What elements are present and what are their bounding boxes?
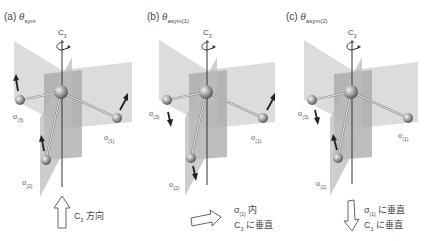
atom-3 bbox=[307, 95, 317, 105]
right-outline-arrow-icon bbox=[191, 210, 221, 226]
sigma1-label: σ(1) bbox=[251, 133, 261, 144]
atom-1 bbox=[112, 113, 122, 123]
down-outline-arrow-icon bbox=[344, 200, 359, 231]
atom-2 bbox=[333, 153, 343, 163]
atom-1 bbox=[403, 113, 413, 123]
caption-line-2: C3 に垂直 bbox=[364, 220, 405, 235]
atom-2 bbox=[41, 155, 51, 165]
atom-1 bbox=[258, 113, 268, 123]
panel-a: (a) θsym bbox=[0, 0, 142, 241]
c3-label: C3 bbox=[348, 28, 357, 39]
sigma2-label: σ(2) bbox=[316, 179, 326, 190]
panel-c: (c) θasym(2) C3 σ(3) σ(1) σ(2) σ(1 bbox=[282, 0, 424, 241]
sigma3-label: σ(3) bbox=[13, 112, 23, 123]
caption: σ(1) に垂直 C3 に垂直 bbox=[364, 205, 405, 235]
atom-2 bbox=[186, 153, 196, 163]
sigma2-label: σ(2) bbox=[169, 180, 179, 191]
atom-3 bbox=[162, 95, 172, 105]
caption-line-1: σ(1) に垂直 bbox=[364, 205, 405, 220]
sigma2-label: σ(2) bbox=[22, 178, 32, 189]
c3-label: C3 bbox=[203, 28, 212, 39]
sigma3-label: σ(3) bbox=[149, 109, 159, 120]
atom-3 bbox=[15, 95, 25, 105]
central-atom bbox=[54, 85, 68, 99]
central-atom bbox=[344, 85, 358, 99]
panel-b: (b) θasym(1) C3 σ(3) σ(1) bbox=[141, 0, 283, 241]
caption-line-1: σ(1) 内 bbox=[234, 205, 273, 220]
sigma3-label: σ(3) bbox=[298, 109, 308, 120]
central-atom bbox=[199, 85, 213, 99]
c3-label: C3 bbox=[58, 28, 67, 39]
caption: C3 方向 bbox=[74, 211, 104, 226]
up-outline-arrow-icon bbox=[54, 196, 70, 228]
caption: σ(1) 内 C3 に垂直 bbox=[234, 205, 273, 235]
sigma1-label: σ(1) bbox=[398, 131, 408, 142]
sigma1-label: σ(1) bbox=[104, 133, 114, 144]
caption-line-2: C3 に垂直 bbox=[234, 220, 273, 235]
